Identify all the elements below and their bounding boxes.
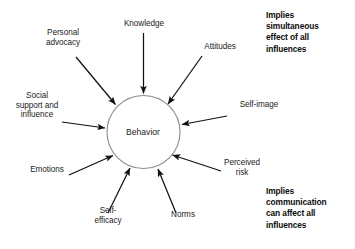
label-self-image: Self-image bbox=[228, 100, 290, 110]
arrow-norms bbox=[158, 169, 176, 213]
arrow-personal-advocacy bbox=[76, 57, 116, 105]
label-norms: Norms bbox=[160, 210, 206, 220]
annotation-communication-effect: Implies communication can affect all inf… bbox=[266, 186, 352, 231]
annotation-simultaneous-effect: Implies simultaneous effect of all influ… bbox=[266, 10, 352, 55]
arrow-self-image bbox=[182, 116, 227, 125]
arrow-emotions bbox=[69, 156, 113, 176]
behavior-influences-figure: Behavior Personal advocacy Knowledge Att… bbox=[0, 0, 355, 249]
label-attitudes: Attitudes bbox=[190, 42, 250, 52]
label-self-efficacy: Self- efficacy bbox=[83, 206, 133, 225]
behavior-circle-label: Behavior bbox=[107, 127, 179, 137]
label-knowledge: Knowledge bbox=[112, 19, 176, 29]
label-social-support: Social support and influence bbox=[8, 91, 66, 120]
label-personal-advocacy: Personal advocacy bbox=[28, 28, 98, 47]
arrow-attitudes bbox=[168, 56, 202, 104]
arrow-social-support bbox=[62, 122, 105, 128]
label-emotions: Emotions bbox=[22, 165, 72, 175]
label-perceived-risk: Perceived risk bbox=[212, 158, 272, 177]
